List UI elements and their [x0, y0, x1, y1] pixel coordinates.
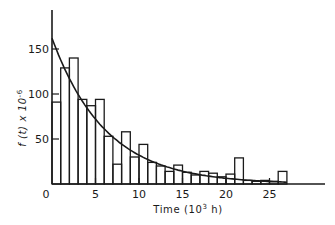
histogram-bar: [156, 166, 165, 184]
histogram-bar: [96, 99, 105, 184]
histogram-bars: [52, 58, 287, 184]
histogram-bar: [209, 173, 218, 184]
histogram-bar: [130, 157, 139, 184]
x-tick-label: 0: [43, 188, 50, 201]
histogram-bar: [200, 171, 209, 184]
histogram-bar: [122, 132, 131, 184]
y-tick-label: 50: [35, 133, 49, 146]
histogram-bar: [139, 144, 148, 184]
histogram-bar: [113, 164, 122, 184]
histogram-bar: [165, 171, 174, 184]
histogram-bar: [104, 136, 113, 184]
x-tick-label: 10: [132, 188, 146, 201]
y-tick-label: 150: [28, 43, 49, 56]
histogram-bar: [174, 165, 183, 184]
x-tick-label: 20: [219, 188, 233, 201]
histogram-bar: [69, 58, 78, 184]
histogram-bar: [61, 68, 70, 184]
x-tick-label: 5: [92, 188, 99, 201]
histogram-bar: [191, 175, 200, 184]
y-axis-ticks: 50100150: [28, 43, 59, 146]
y-tick-label: 100: [28, 88, 49, 101]
y-axis-title: f (t) x 10-6: [16, 89, 28, 147]
x-tick-label: 25: [263, 188, 277, 201]
histogram-bar: [78, 99, 87, 184]
histogram-bar: [52, 102, 61, 184]
chart-canvas: 50100150 0510152025 Time (103 h) f (t) x…: [0, 0, 335, 225]
histogram-bar: [148, 162, 157, 184]
x-axis-title: Time (103 h): [152, 203, 222, 215]
x-tick-label: 15: [176, 188, 190, 201]
histogram-bar: [183, 172, 192, 184]
